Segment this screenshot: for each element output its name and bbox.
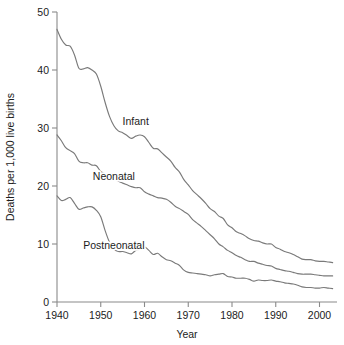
x-tick-group: 1940195019601970198019902000 (45, 302, 331, 321)
y-tick-label: 10 (37, 238, 49, 250)
x-tick-label: 1980 (220, 309, 244, 321)
series-line-infant (57, 29, 333, 262)
x-tick-label: 1940 (45, 309, 69, 321)
y-tick-label: 0 (43, 296, 49, 308)
x-tick-label: 2000 (308, 309, 332, 321)
x-tick-label: 1990 (264, 309, 288, 321)
y-tick-label: 40 (37, 64, 49, 76)
x-tick-label: 1970 (177, 309, 201, 321)
x-tick-label: 1950 (89, 309, 113, 321)
x-tick-label: 1960 (133, 309, 157, 321)
y-tick-label: 30 (37, 122, 49, 134)
x-axis-title: Year (176, 328, 198, 340)
chart-figure: 01020304050 1940195019601970198019902000… (0, 0, 344, 345)
series-label-postneonatal: Postneonatal (83, 239, 144, 251)
series-label-infant: Infant (123, 115, 149, 127)
y-axis: 01020304050 (37, 6, 57, 308)
series-label-neonatal: Neonatal (93, 170, 135, 182)
y-tick-label: 20 (37, 180, 49, 192)
y-axis-title: Deaths per 1,000 live births (4, 93, 16, 221)
series-line-neonatal (57, 135, 333, 276)
y-tick-group: 01020304050 (37, 6, 57, 308)
x-axis: 1940195019601970198019902000 (45, 302, 337, 321)
infant-mortality-line-chart: 01020304050 1940195019601970198019902000… (0, 0, 344, 345)
y-tick-label: 50 (37, 6, 49, 18)
